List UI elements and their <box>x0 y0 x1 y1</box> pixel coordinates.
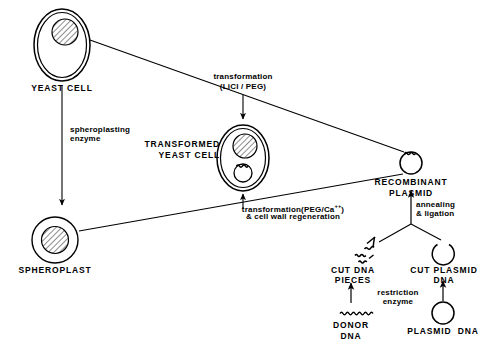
yeast-cell-glyph <box>34 9 90 81</box>
cut-dna-pieces-label-line2: PIECES <box>322 276 384 286</box>
plasmid-dna-glyph <box>432 302 454 324</box>
cut-dna-pieces-glyph <box>355 237 375 263</box>
transformation-licl-peg-label-line2: (LiCI / PEG) <box>193 83 293 92</box>
donor-dna-glyph <box>340 312 373 315</box>
transformed-yeast-cell-label-line2: YEAST CELL <box>142 151 220 161</box>
annealing-ligation-label-line2: & ligation <box>416 210 482 219</box>
cut-plasmid-dna-glyph <box>432 245 454 265</box>
yeast-cell-label: YEAST CELL <box>10 84 114 94</box>
yeast-transformation-diagram: YEAST CELL spheroplasting enzyme SPHEROP… <box>0 0 490 356</box>
spheroplast-label: SPHEROPLAST <box>3 266 107 276</box>
plasmid-dna-label: PLASMID DNA <box>396 327 490 337</box>
spheroplast-glyph <box>32 217 78 263</box>
restriction-enzyme-label-line2: enzyme <box>364 298 432 307</box>
recombinant-plasmid-label-line2: PLASMID <box>355 189 467 199</box>
transformation-licl-peg-label-line1: transformation <box>193 73 293 82</box>
transformed-yeast-cell-glyph <box>217 125 269 191</box>
cut-plasmid-dna-label-line2: DNA <box>406 276 482 286</box>
transformed-yeast-cell-label-line1: TRANSFORMED <box>142 140 220 150</box>
donor-dna-label-line2: DNA <box>320 332 382 342</box>
recombinant-plasmid-label-line1: RECOMBINANT <box>355 178 467 188</box>
recombinant-plasmid-glyph <box>400 152 422 174</box>
transformation-peg-ca-label-line2: & cell wall regeneration <box>203 213 383 222</box>
donor-dna-label-line1: DONOR <box>320 321 382 331</box>
connector-y-junction <box>379 224 441 242</box>
